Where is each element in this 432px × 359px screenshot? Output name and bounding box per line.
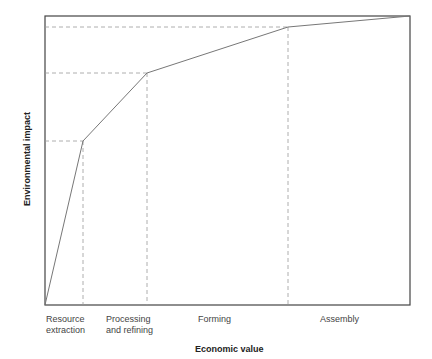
category-label-resource-extraction: Resource extraction	[46, 314, 85, 336]
impact-curve	[45, 16, 410, 305]
category-label-forming: Forming	[198, 314, 231, 325]
y-axis-title: Environmental impact	[22, 109, 32, 209]
x-axis-title: Economic value	[195, 344, 264, 354]
chart-canvas	[0, 0, 432, 359]
category-label-assembly: Assembly	[320, 314, 359, 325]
category-label-processing-refining: Processing and refining	[106, 314, 153, 336]
plot-frame	[45, 16, 410, 305]
dashed-reference-lines	[45, 27, 288, 305]
